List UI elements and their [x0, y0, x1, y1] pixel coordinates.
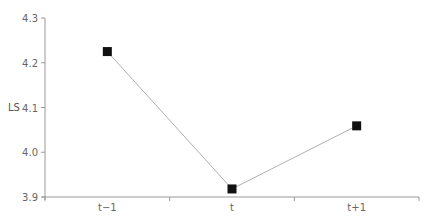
y-tick-label: 4.1: [22, 103, 38, 114]
y-tick-label: 4.3: [22, 13, 38, 24]
x-tick-label: t+1: [347, 202, 366, 213]
data-point-marker: [103, 47, 112, 56]
data-point-marker: [352, 121, 361, 130]
series-line: [107, 52, 356, 189]
x-tick-label: t−1: [98, 202, 117, 213]
y-axis-title: LS: [8, 102, 20, 113]
x-tick-label: t: [230, 202, 234, 213]
plot-area: [103, 47, 361, 193]
y-tick-label: 3.9: [22, 192, 38, 203]
data-point-marker: [228, 184, 237, 193]
axes: 3.94.04.14.24.3t−1tt+1: [22, 13, 419, 213]
y-tick-label: 4.0: [22, 147, 38, 158]
y-tick-label: 4.2: [22, 58, 38, 69]
line-chart: 3.94.04.14.24.3t−1tt+1 LS: [0, 0, 426, 217]
